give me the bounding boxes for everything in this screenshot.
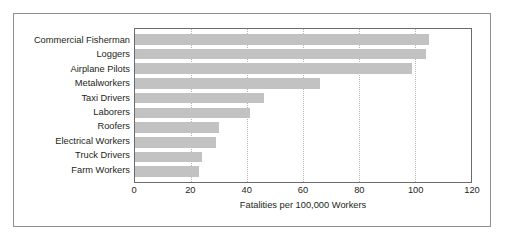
bar xyxy=(135,137,216,148)
category-label: Metalworkers xyxy=(14,76,134,90)
bar xyxy=(135,93,264,104)
bar xyxy=(135,63,412,74)
bar-row xyxy=(135,108,471,119)
category-axis: Commercial FishermanLoggersAirplane Pilo… xyxy=(14,33,134,177)
x-tick-label: 0 xyxy=(131,185,136,195)
x-tick-label: 80 xyxy=(354,185,364,195)
bar-row xyxy=(135,137,471,148)
bar-row xyxy=(135,63,471,74)
bar xyxy=(135,49,426,60)
x-axis-title: Fatalities per 100,000 Workers xyxy=(134,200,472,210)
category-label: Taxi Drivers xyxy=(14,91,134,105)
category-label: Truck Drivers xyxy=(14,148,134,162)
bar-row xyxy=(135,49,471,60)
bar xyxy=(135,34,429,45)
bar-row xyxy=(135,166,471,177)
bars-group xyxy=(135,34,471,177)
bar xyxy=(135,108,250,119)
bar-row xyxy=(135,122,471,133)
bar xyxy=(135,152,202,163)
plot-area xyxy=(134,28,472,183)
bar-row xyxy=(135,93,471,104)
bar xyxy=(135,166,199,177)
bar-row xyxy=(135,78,471,89)
bar-row xyxy=(135,34,471,45)
bar xyxy=(135,122,219,133)
category-label: Laborers xyxy=(14,105,134,119)
category-label: Airplane Pilots xyxy=(14,62,134,76)
category-label: Farm Workers xyxy=(14,163,134,177)
bar-row xyxy=(135,152,471,163)
x-axis-ticklabels: 020406080100120 xyxy=(134,185,472,199)
x-tick-label: 60 xyxy=(298,185,308,195)
x-tick-label: 40 xyxy=(241,185,251,195)
category-label: Electrical Workers xyxy=(14,134,134,148)
x-tick-label: 100 xyxy=(408,185,424,195)
category-label: Roofers xyxy=(14,119,134,133)
x-tick-label: 20 xyxy=(185,185,195,195)
bar xyxy=(135,78,320,89)
category-label: Loggers xyxy=(14,47,134,61)
chart-figure: Commercial FishermanLoggersAirplane Pilo… xyxy=(13,13,491,227)
category-label: Commercial Fisherman xyxy=(14,33,134,47)
x-tick-label: 120 xyxy=(464,185,480,195)
